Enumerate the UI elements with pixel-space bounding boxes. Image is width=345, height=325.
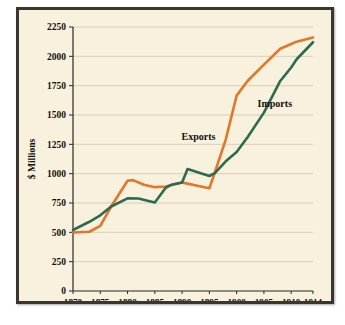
x-tick-label: 1900 <box>227 297 246 301</box>
x-tick-label: 1880 <box>118 297 137 301</box>
y-tick-label: 750 <box>52 198 67 208</box>
y-axis-title: $ Millions <box>27 139 37 180</box>
series-annotation-imports: Imports <box>258 98 293 109</box>
x-tick-label: 1875 <box>91 297 110 301</box>
chart-frame: 0250500750100012501500175020002250187018… <box>16 7 334 304</box>
x-tick-label: 1890 <box>173 297 192 301</box>
y-tick-label: 2000 <box>47 52 66 62</box>
x-tick-label: 1914 <box>304 297 323 301</box>
line-chart: 0250500750100012501500175020002250187018… <box>19 10 331 301</box>
y-tick-label: 1500 <box>47 110 66 120</box>
y-tick-label: 2250 <box>47 22 66 32</box>
x-tick-label: 1895 <box>200 297 219 301</box>
y-tick-label: 500 <box>52 228 67 238</box>
plot-background <box>73 27 313 291</box>
y-tick-label: 1000 <box>47 169 66 179</box>
y-tick-label: 0 <box>61 286 66 296</box>
x-tick-label: 1905 <box>255 297 274 301</box>
x-tick-label: 1870 <box>64 297 83 301</box>
series-annotation-exports: Exports <box>182 131 216 142</box>
x-tick-label: 1885 <box>146 297 165 301</box>
chart-frame-inner: 0250500750100012501500175020002250187018… <box>19 10 331 301</box>
y-tick-label: 250 <box>52 257 67 267</box>
y-tick-label: 1750 <box>47 81 66 91</box>
y-tick-label: 1250 <box>47 140 66 150</box>
x-tick-label: 1910 <box>282 297 301 301</box>
figure-canvas: 0250500750100012501500175020002250187018… <box>0 0 345 325</box>
